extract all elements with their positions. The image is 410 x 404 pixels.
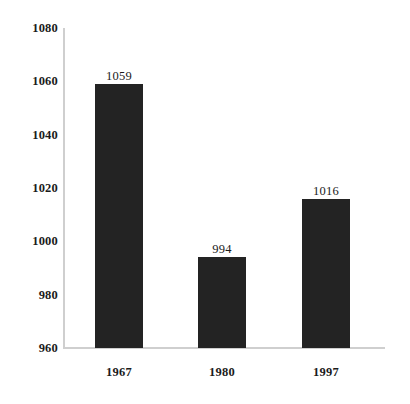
x-axis-tick-label-1967: 1967: [79, 366, 159, 379]
bar-1997[interactable]: [302, 199, 350, 348]
bar-value-label-1980: 994: [187, 243, 257, 256]
y-axis-tick-label: 1000: [32, 235, 58, 248]
bar-1980[interactable]: [198, 257, 246, 348]
bar-value-label-1967: 1059: [84, 70, 154, 83]
bar-value-label-1997: 1016: [291, 185, 361, 198]
y-axis-tick-label: 980: [39, 289, 58, 302]
y-axis-tick-label: 960: [39, 342, 58, 355]
bar-1967[interactable]: [95, 84, 143, 348]
x-axis-tick-label-1980: 1980: [182, 366, 262, 379]
plot-area: 1059 994 1016 1967 1980 1997: [63, 28, 385, 348]
y-axis-tick-label: 1020: [32, 182, 58, 195]
bar-chart: 1080 1060 1040 1020 1000 980 960 1059 99…: [0, 0, 410, 404]
y-axis-line: [63, 28, 65, 348]
y-axis-tick-label: 1080: [32, 22, 58, 35]
x-axis-tick-label-1997: 1997: [286, 366, 366, 379]
y-axis-tick-label: 1040: [32, 129, 58, 142]
y-axis-tick-label: 1060: [32, 75, 58, 88]
